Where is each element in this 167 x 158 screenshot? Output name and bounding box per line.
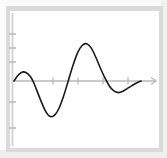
figure-screenshot bbox=[0, 0, 167, 158]
plot-svg bbox=[0, 0, 167, 158]
